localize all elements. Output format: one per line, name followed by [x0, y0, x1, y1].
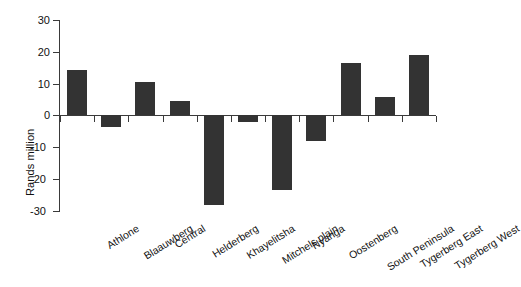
x-tick-mark: [231, 116, 232, 122]
x-tick-mark: [436, 116, 437, 122]
bar: [67, 70, 87, 115]
bar: [204, 115, 224, 205]
bar: [306, 115, 326, 141]
x-tick-mark: [265, 116, 266, 122]
x-tick-mark: [60, 116, 61, 122]
x-tick-mark: [368, 116, 369, 122]
x-tick-mark: [402, 116, 403, 122]
x-tick-mark: [299, 116, 300, 122]
x-axis-label: Tygerberg West: [452, 222, 521, 271]
bar: [238, 115, 258, 122]
bar: [101, 115, 121, 127]
bar: [375, 97, 395, 115]
bar: [170, 101, 190, 115]
x-tick-mark: [94, 116, 95, 122]
x-tick-mark: [333, 116, 334, 122]
bar: [409, 55, 429, 115]
bar: [272, 115, 292, 190]
x-tick-mark: [197, 116, 198, 122]
bar: [135, 82, 155, 115]
x-tick-mark: [128, 116, 129, 122]
bar: [341, 63, 361, 115]
x-tick-mark: [163, 116, 164, 122]
